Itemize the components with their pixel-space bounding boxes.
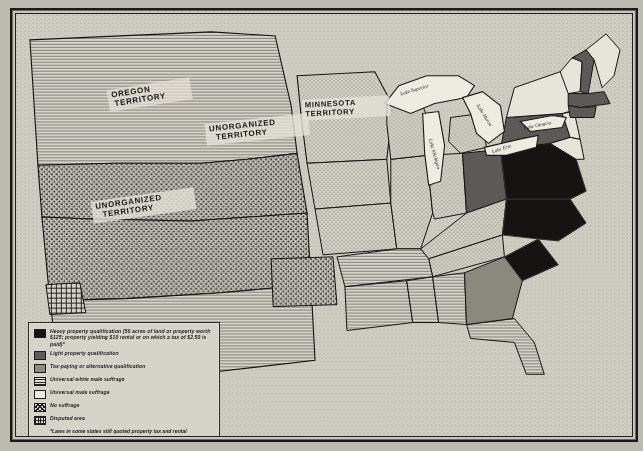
legend-label-no-suffrage: No suffrage [50,402,79,408]
region-connecticut-rhode-island [568,106,596,118]
legend-label-tax: Tax-paying or alternative qualification [50,363,145,369]
legend-item-tax: Tax-paying or alternative qualification [34,363,214,373]
region-unorganized-territory-south [42,213,311,301]
legend-swatch-heavy [34,329,46,338]
map-frame-inner: OREGON TERRITORY UNORGANIZED TERRITORY U… [15,13,633,437]
legend-swatch-tax [34,364,46,373]
legend-item-universal-white-male: Universal white male suffrage [34,376,214,386]
legend-swatch-disputed [34,416,46,425]
legend-label-heavy: Heavy property qualification (50 acres o… [50,328,214,347]
legend-item-universal-male: Universal male suffrage [34,389,214,399]
region-alabama [433,273,467,325]
legend-swatch-universal-white-male [34,377,46,386]
legend-footnote: *Laws in some states still quoted proper… [50,428,214,437]
legend-item-disputed: Disputed area [34,415,214,425]
legend-item-light: Light property qualification [34,350,214,360]
legend-label-light: Light property qualification [50,350,119,356]
region-texas-stipple [271,257,337,307]
legend-item-no-suffrage: No suffrage [34,402,214,412]
region-missouri [315,203,397,255]
legend-swatch-universal-male [34,390,46,399]
region-louisiana [345,281,413,331]
map-scan-page: OREGON TERRITORY UNORGANIZED TERRITORY U… [0,0,643,451]
legend-label-universal-male: Universal male suffrage [50,389,110,395]
region-disputed-area [46,283,86,315]
legend-item-heavy: Heavy property qualification (50 acres o… [34,328,214,347]
legend-swatch-light [34,351,46,360]
legend-label-disputed: Disputed area [50,415,85,421]
region-iowa [307,159,391,209]
legend-swatch-no-suffrage [34,403,46,412]
map-frame: OREGON TERRITORY UNORGANIZED TERRITORY U… [10,8,638,442]
legend-label-universal-white-male: Universal white male suffrage [50,376,125,382]
map-legend: Heavy property qualification (50 acres o… [28,322,220,437]
